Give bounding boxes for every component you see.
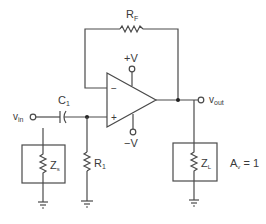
output-node bbox=[176, 98, 180, 102]
r1-label: R1 bbox=[94, 157, 106, 170]
zl-label: ZL bbox=[201, 157, 212, 170]
feedback-wire-right bbox=[143, 29, 178, 100]
circuit-diagram: RF − + +V −V vout ZL Av = 1 vin C1 Zs bbox=[0, 0, 266, 224]
noninverting-input-sign: + bbox=[111, 112, 117, 123]
input-resistor-r1 bbox=[84, 152, 90, 171]
zs-label: Zs bbox=[50, 159, 60, 172]
ground-r1 bbox=[81, 201, 93, 207]
vout-label: vout bbox=[209, 94, 224, 106]
pos-supply-terminal bbox=[129, 66, 135, 72]
ground-load bbox=[189, 200, 199, 206]
feedback-wire bbox=[85, 29, 120, 88]
source-impedance-zs bbox=[40, 145, 46, 183]
rf-label: RF bbox=[126, 8, 138, 22]
input-terminal bbox=[30, 114, 36, 120]
feedback-resistor-rf bbox=[120, 26, 143, 32]
load-impedance-zl bbox=[191, 143, 197, 181]
output-terminal bbox=[198, 97, 204, 103]
pos-supply-label: +V bbox=[124, 52, 138, 64]
neg-supply-terminal bbox=[130, 129, 136, 135]
neg-supply-label: −V bbox=[124, 137, 138, 149]
inverting-input-sign: − bbox=[111, 83, 117, 94]
gain-label: Av = 1 bbox=[230, 157, 259, 170]
c1-label: C1 bbox=[58, 94, 70, 107]
vin-label: vin bbox=[13, 111, 24, 123]
ground-source bbox=[38, 202, 48, 208]
